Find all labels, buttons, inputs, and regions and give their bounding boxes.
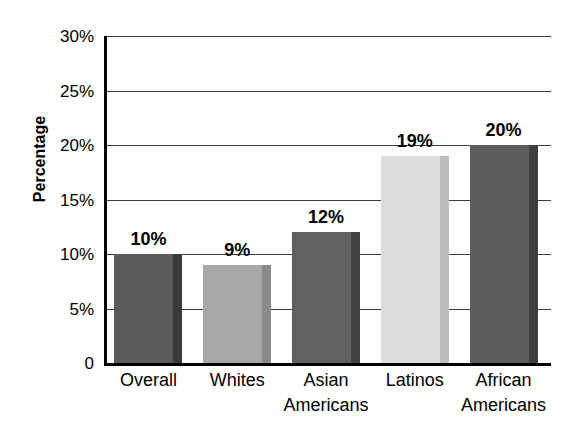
bar[interactable] (470, 145, 538, 363)
bar-group[interactable]: 19% (381, 36, 449, 363)
bar-face (203, 265, 262, 363)
bar-group[interactable]: 12% (292, 36, 360, 363)
bar[interactable] (203, 265, 271, 363)
bar-side-shadow (440, 156, 449, 363)
bar-value-label: 9% (181, 240, 293, 261)
bar-chart: Percentage 30%25%20%15%10%5%0 10%9%12%19… (0, 0, 564, 434)
x-axis-category-labels: OverallWhitesAsianAmericansLatinosAfrica… (104, 368, 548, 430)
bar[interactable] (381, 156, 449, 363)
x-axis-label-line2: Americans (266, 393, 387, 418)
bar-face (470, 145, 529, 363)
bar-face (114, 254, 173, 363)
x-axis-label-line1: Whites (210, 370, 265, 390)
bar[interactable] (292, 232, 360, 363)
bar-side-shadow (173, 254, 182, 363)
x-axis-label-line1: Asian (303, 370, 348, 390)
y-tick-label-20: 20% (32, 137, 94, 154)
y-tick-label-25: 25% (32, 82, 94, 99)
y-tick-label-5: 5% (32, 300, 94, 317)
x-axis-label: AfricanAmericans (443, 368, 564, 418)
bar-side-shadow (351, 232, 360, 363)
x-axis-label-line1: Latinos (386, 370, 444, 390)
bar-face (381, 156, 440, 363)
x-axis-label-line1: African (476, 370, 532, 390)
bar-value-label: 20% (448, 120, 560, 141)
bar-face (292, 232, 351, 363)
bar-group[interactable]: 20% (470, 36, 538, 363)
x-axis-label-line2: Americans (443, 393, 564, 418)
y-axis-tick-labels: 30%25%20%15%10%5%0 (26, 36, 94, 363)
bar-group[interactable]: 9% (203, 36, 271, 363)
bar-side-shadow (262, 265, 271, 363)
y-tick-label-15: 15% (32, 191, 94, 208)
bar[interactable] (114, 254, 182, 363)
bar-value-label: 12% (270, 207, 382, 228)
y-tick-label-0: 0 (32, 355, 94, 372)
bar-side-shadow (529, 145, 538, 363)
bar-group[interactable]: 10% (114, 36, 182, 363)
y-tick-label-10: 10% (32, 246, 94, 263)
bars-layer: 10%9%12%19%20% (104, 36, 548, 363)
x-axis-label-line1: Overall (120, 370, 177, 390)
y-tick-label-30: 30% (32, 28, 94, 45)
